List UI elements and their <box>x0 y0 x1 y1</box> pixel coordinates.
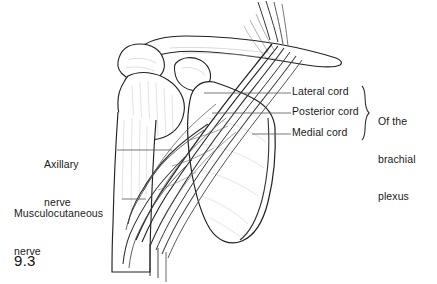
label-plexus-line-2: brachial <box>378 153 416 166</box>
bone-group-humerus-shaft <box>112 112 156 272</box>
brace-brachial-plexus <box>362 86 369 140</box>
label-plexus-line-1: Of the <box>378 115 416 128</box>
label-brachial-plexus-group: Of the brachial plexus <box>378 90 416 228</box>
label-posterior-cord: Posterior cord <box>292 105 359 118</box>
nerve-root-upper-3 <box>274 2 283 44</box>
nerve-root-upper-2 <box>266 1 278 42</box>
nerve-root-upper-4 <box>282 4 288 46</box>
label-medial-cord: Medial cord <box>292 126 347 139</box>
label-musculocutaneous-line-1: Musculocutaneous <box>14 207 103 220</box>
clavicle-outline <box>141 36 342 67</box>
figure-container: Lateral cord Posterior cord Medial cord … <box>0 0 437 284</box>
humerus-shaft-outline <box>112 112 156 272</box>
label-axillary-line-1: Axillary <box>44 158 79 171</box>
bone-group-clavicle <box>141 36 342 67</box>
figure-number: 9.3 <box>14 252 36 269</box>
label-lateral-cord: Lateral cord <box>292 85 349 98</box>
label-plexus-line-3: plexus <box>378 190 416 203</box>
bone-group-scapula <box>188 82 275 243</box>
scapula-blade-outline <box>188 82 275 243</box>
